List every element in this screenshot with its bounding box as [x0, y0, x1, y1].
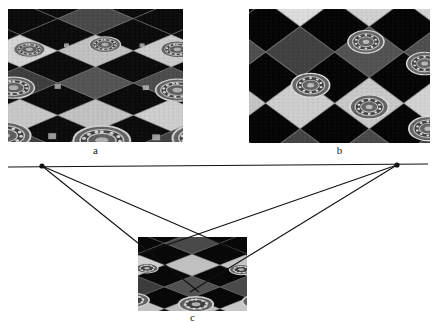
ray-left-1 [42, 166, 247, 255]
panel-a-image [8, 9, 183, 142]
clipped-header-text: · · · · · · · · · · · · [169, 0, 276, 3]
left-vanishing-point [39, 163, 44, 168]
figure-root: · · · · · · · · · · · · [0, 0, 445, 323]
horizon-line [8, 164, 428, 167]
ray-left-2 [42, 166, 199, 292]
tiled-floor-perspective-a [8, 9, 183, 142]
vanishing-point-diagram [0, 155, 445, 323]
right-vanishing-point [394, 162, 399, 167]
tiled-floor-rectified-b [249, 9, 430, 143]
vanishing-line-construction [0, 155, 445, 323]
clipped-header-strip: · · · · · · · · · · · · [0, 0, 445, 6]
ray-right-2 [190, 165, 397, 292]
panel-b-image [249, 9, 430, 143]
ray-right-1 [138, 165, 397, 255]
